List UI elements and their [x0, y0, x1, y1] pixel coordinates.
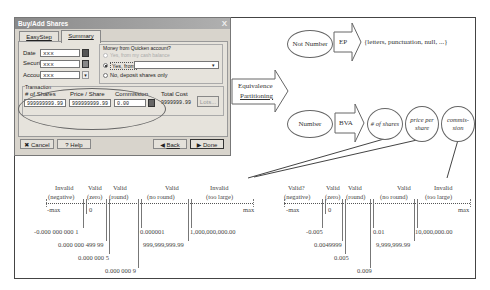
boundary-tick	[141, 199, 142, 228]
boundary-value: 0.000 000 9	[105, 267, 136, 274]
max-label: max	[243, 206, 254, 213]
axis-line	[46, 203, 253, 204]
bva-arrow-label: BVA	[339, 119, 353, 127]
boundary-value: 0.000 000 499 99	[58, 241, 104, 248]
class-range: (zero)	[325, 193, 341, 200]
class-status: Invalid	[434, 184, 452, 191]
class-status: Valid	[88, 184, 102, 191]
number-node: Number	[287, 110, 333, 138]
ep-label-line2: Partitioning	[240, 92, 273, 100]
class-range: (no round)	[147, 193, 175, 200]
tab-summary[interactable]: Summary	[61, 30, 101, 43]
boundary-value: 0.000 000 5	[78, 254, 109, 261]
class-range: (zero)	[87, 193, 103, 200]
boundary-value: 9,999,999.99	[376, 241, 410, 248]
class-range: (round)	[109, 193, 129, 200]
zero-label: 0	[89, 206, 92, 213]
boundary-tick	[138, 199, 139, 268]
not-number-node: Not Number	[287, 30, 333, 58]
boundary-tick	[86, 199, 87, 214]
boundary-tick	[106, 199, 107, 241]
boundary-tick	[191, 199, 192, 228]
zero-label: 0	[328, 206, 331, 213]
class-status: Valid	[165, 184, 179, 191]
boundary-tick	[322, 199, 323, 228]
boundary-value: -0.005	[306, 228, 323, 235]
axis-line	[284, 203, 470, 204]
max-label: max	[458, 206, 469, 213]
class-status: Valid	[113, 184, 127, 191]
ep-label-line1: Equivalence	[238, 82, 273, 90]
class-range: (round)	[346, 193, 366, 200]
boundary-value: 999,999,999.99	[143, 241, 184, 248]
class-status: Valid	[348, 184, 362, 191]
boundary-value: 1,000,000,000.00	[190, 228, 236, 235]
boundary-tick	[417, 199, 418, 228]
class-range: (too large)	[425, 193, 452, 200]
class-status: Valid	[326, 184, 340, 191]
class-status: Invalid	[210, 184, 228, 191]
boundary-value: 0.01	[373, 228, 384, 235]
price-per-share-node: price per share	[405, 106, 439, 142]
class-range: (negative)	[48, 193, 74, 200]
shares-node: # of shares	[367, 108, 403, 140]
boundary-tick	[342, 199, 343, 241]
min-label: -max	[47, 206, 60, 213]
class-range: (negative)	[284, 193, 310, 200]
ep-arrow-label: EP	[339, 38, 347, 46]
boundary-tick	[373, 199, 374, 228]
commission-node: commis- sion	[441, 106, 475, 142]
boundary-tick	[325, 199, 326, 214]
boundary-value: -0.000 000 000 1	[34, 228, 78, 235]
class-status: Valid	[397, 184, 411, 191]
boundary-tick	[345, 199, 346, 254]
boundary-value: 0.009	[357, 267, 372, 274]
boundary-value: 10,000,000.00	[415, 228, 452, 235]
boundary-value: 0.0049999	[314, 241, 342, 248]
class-range: (no round)	[380, 193, 408, 200]
not-number-set: {letters, punctuation, null, ...}	[364, 38, 448, 46]
boundary-value: 0.000001	[140, 228, 164, 235]
class-range: (too large)	[206, 193, 233, 200]
boundary-tick	[370, 199, 371, 268]
boundary-value: 0.005	[334, 254, 349, 261]
boundary-tick	[188, 199, 189, 241]
boundary-tick	[83, 199, 84, 228]
boundary-tick	[109, 199, 110, 254]
class-status: Invalid	[55, 184, 73, 191]
class-status: Valid?	[288, 184, 305, 191]
axis-tick	[284, 199, 285, 207]
axis-tick	[470, 199, 471, 207]
min-label: -max	[286, 206, 299, 213]
